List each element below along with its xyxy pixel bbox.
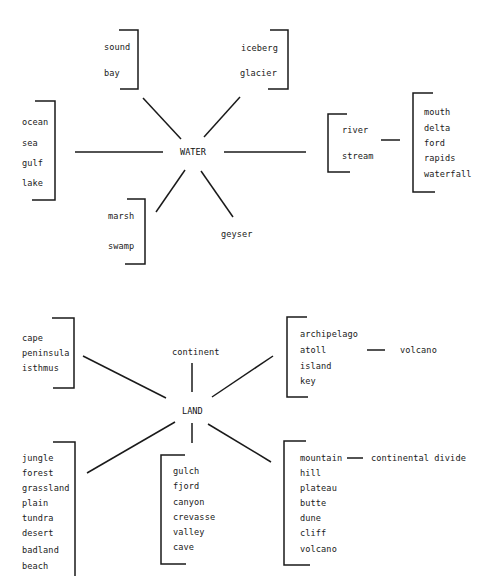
land-section: LAND continent cape peninsula isthmus ar… — [22, 317, 466, 576]
term-atoll: atoll — [300, 345, 326, 355]
water-section: WATER sound bay iceberg glacier ocean se… — [22, 30, 471, 264]
term-forest: forest — [22, 468, 54, 478]
term-archipelago: archipelago — [300, 329, 358, 339]
term-key: key — [300, 376, 316, 386]
bracket — [119, 30, 138, 89]
connector-line — [208, 424, 271, 462]
term-ford: ford — [424, 138, 445, 148]
term-volcano-2: volcano — [300, 544, 337, 554]
term-volcano: volcano — [400, 345, 437, 355]
term-hill: hill — [300, 468, 321, 478]
bracket — [268, 30, 288, 89]
term-sound: sound — [104, 42, 130, 52]
term-ocean: ocean — [22, 117, 48, 127]
connector-line — [156, 170, 185, 212]
term-grassland: grassland — [22, 483, 69, 493]
connector-line — [83, 356, 166, 398]
connector-line — [143, 98, 181, 139]
term-canyon: canyon — [173, 497, 205, 507]
term-sea: sea — [22, 138, 38, 148]
term-dune: dune — [300, 513, 321, 523]
term-continental-divide: continental divide — [371, 453, 466, 463]
term-fjord: fjord — [173, 481, 199, 491]
term-marsh: marsh — [108, 211, 134, 221]
land-hub-label: LAND — [182, 406, 203, 416]
term-bay: bay — [104, 68, 120, 78]
concept-map: WATER sound bay iceberg glacier ocean se… — [0, 0, 481, 576]
term-plateau: plateau — [300, 483, 337, 493]
term-peninsula: peninsula — [22, 348, 69, 358]
connector-line — [212, 356, 273, 397]
term-crevasse: crevasse — [173, 512, 215, 522]
term-mouth: mouth — [424, 107, 450, 117]
term-iceberg: iceberg — [241, 43, 278, 53]
bracket — [125, 199, 145, 264]
term-river: river — [342, 125, 368, 135]
term-valley: valley — [173, 527, 205, 537]
term-continent: continent — [172, 347, 219, 357]
term-waterfall: waterfall — [424, 169, 471, 179]
term-beach: beach — [22, 561, 48, 571]
term-island: island — [300, 361, 332, 371]
term-tundra: tundra — [22, 513, 54, 523]
term-gulch: gulch — [173, 466, 199, 476]
term-jungle: jungle — [22, 453, 54, 463]
term-lake: lake — [22, 178, 43, 188]
term-geyser: geyser — [221, 229, 253, 239]
term-plain: plain — [22, 498, 48, 508]
water-hub-label: WATER — [180, 147, 207, 157]
term-swamp: swamp — [108, 241, 134, 251]
bracket — [53, 442, 75, 576]
term-butte: butte — [300, 498, 326, 508]
term-isthmus: isthmus — [22, 363, 59, 373]
connector-line — [204, 97, 240, 137]
bracket — [328, 114, 350, 172]
term-badland: badland — [22, 545, 59, 555]
term-rapids: rapids — [424, 153, 456, 163]
term-delta: delta — [424, 123, 450, 133]
term-mountain: mountain — [300, 453, 342, 463]
term-gulf: gulf — [22, 158, 43, 168]
connector-line — [201, 171, 233, 217]
term-stream: stream — [342, 151, 374, 161]
term-cave: cave — [173, 542, 194, 552]
term-cape: cape — [22, 333, 43, 343]
term-glacier: glacier — [240, 68, 277, 78]
term-desert: desert — [22, 528, 54, 538]
term-cliff: cliff — [300, 528, 326, 538]
connector-line — [87, 422, 175, 473]
